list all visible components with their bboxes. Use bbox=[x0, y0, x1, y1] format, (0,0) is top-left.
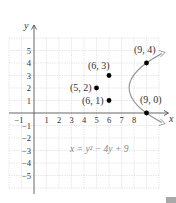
svg-text:4: 4 bbox=[82, 115, 87, 125]
x-axis-label: x bbox=[168, 113, 174, 124]
svg-text:8: 8 bbox=[132, 115, 136, 125]
equation-label: x = y² − 4y + 9 bbox=[69, 144, 129, 154]
point-5-2 bbox=[94, 86, 99, 91]
corner-marker bbox=[166, 197, 176, 203]
svg-text:−2: −2 bbox=[22, 133, 31, 143]
svg-text:7: 7 bbox=[119, 115, 123, 125]
point-9-4 bbox=[144, 61, 149, 66]
svg-text:−3: −3 bbox=[22, 146, 31, 156]
point-9-0 bbox=[144, 111, 149, 116]
parabola-graph: x y −1 1 2 3 4 5 6 7 8 5 4 3 2 1 −1 −2 −… bbox=[0, 0, 176, 203]
svg-text:−1: −1 bbox=[22, 121, 31, 131]
svg-text:1: 1 bbox=[44, 115, 48, 125]
label-9-4: (9, 4) bbox=[134, 44, 156, 56]
curve-arrow-top-icon bbox=[159, 51, 165, 58]
svg-text:5: 5 bbox=[27, 46, 31, 56]
svg-text:3: 3 bbox=[27, 71, 31, 81]
svg-text:1: 1 bbox=[27, 96, 31, 106]
label-6-1: (6, 1) bbox=[82, 95, 104, 107]
svg-text:2: 2 bbox=[27, 83, 31, 93]
curve-arrow-bottom-icon bbox=[159, 119, 165, 126]
label-9-0: (9, 0) bbox=[140, 94, 162, 106]
svg-text:5: 5 bbox=[94, 115, 98, 125]
svg-text:−5: −5 bbox=[22, 171, 31, 181]
point-6-1 bbox=[107, 98, 112, 103]
point-6-3 bbox=[107, 73, 112, 78]
label-6-3: (6, 3) bbox=[88, 60, 110, 72]
svg-text:−4: −4 bbox=[22, 158, 32, 168]
svg-text:3: 3 bbox=[69, 115, 73, 125]
x-tick-labels: −1 1 2 3 4 5 6 7 8 bbox=[14, 115, 136, 125]
label-5-2: (5, 2) bbox=[70, 82, 92, 94]
svg-text:6: 6 bbox=[107, 115, 111, 125]
svg-text:2: 2 bbox=[57, 115, 61, 125]
y-axis-label: y bbox=[23, 20, 29, 31]
